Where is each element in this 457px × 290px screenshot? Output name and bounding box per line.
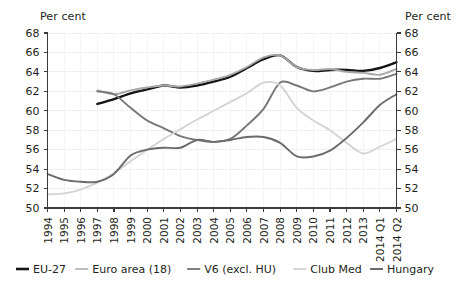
y-tick-label-left: 60 [26, 105, 40, 118]
x-tick-label: 2000 [141, 217, 153, 244]
chart-canvas: 50525456586062646668 5052545658606264666… [0, 0, 457, 290]
y-tick-label-right: 58 [405, 124, 419, 137]
y-tick-label-right: 62 [405, 85, 419, 98]
x-tick-label: 2013 [357, 217, 369, 244]
y-tick-label-right: 64 [405, 66, 419, 79]
y-tick-label-left: 64 [26, 66, 40, 79]
y-tick-label-right: 54 [405, 163, 419, 176]
series-line-club-med [48, 82, 397, 194]
legend-label-club-med: Club Med [310, 263, 361, 276]
horizontal-gridlines [48, 33, 397, 189]
y-tick-label-right: 56 [405, 143, 419, 156]
x-tick-label: 2004 [208, 217, 220, 244]
legend-label-v6-excl-hu: V6 (excl. HU) [204, 263, 276, 276]
x-tick-label: 2008 [274, 217, 286, 244]
y-tick-label-left: 62 [26, 85, 40, 98]
x-tick-label: 2009 [291, 217, 303, 244]
x-tick-label: 2010 [307, 217, 319, 244]
y-tick-label-left: 66 [26, 46, 40, 59]
legend-label-eu-27: EU-27 [33, 263, 66, 276]
y-tick-label-left: 58 [26, 124, 40, 137]
x-tick-label: 2011 [324, 217, 336, 244]
legend-label-euro-area-18: Euro area (18) [92, 263, 171, 276]
legend-label-hungary: Hungary [387, 263, 434, 276]
x-tick-label: 1995 [58, 217, 70, 244]
y-axis-ticks-left: 50525456586062646668 [26, 27, 48, 215]
x-tick-label: 2001 [158, 217, 170, 244]
y-tick-label-right: 60 [405, 105, 419, 118]
y-tick-label-right: 66 [405, 46, 419, 59]
x-tick-label: 2014 Q1 [374, 217, 386, 262]
x-tick-label: 1994 [42, 217, 54, 244]
series-lines [48, 55, 397, 195]
x-tick-label: 2012 [341, 217, 353, 244]
y-tick-label-left: 54 [26, 163, 40, 176]
line-chart: Per cent Per cent 50525456586062646668 5… [0, 0, 457, 290]
y-tick-label-left: 52 [26, 182, 40, 195]
y-tick-label-left: 56 [26, 143, 40, 156]
x-tick-label: 2005 [224, 217, 236, 244]
x-tick-label: 1998 [108, 217, 120, 244]
x-tick-label: 1997 [91, 217, 103, 244]
chart-legend: EU-27Euro area (18)V6 (excl. HU)Club Med… [16, 263, 434, 276]
vertical-gridlines [64, 33, 396, 208]
y-tick-label-left: 50 [26, 202, 40, 215]
y-axis-unit-label-right: Per cent [405, 10, 451, 23]
x-tick-label: 2003 [191, 217, 203, 244]
x-tick-label: 2002 [174, 217, 186, 244]
x-tick-label: 2014 Q2 [391, 217, 403, 262]
y-tick-label-right: 52 [405, 182, 419, 195]
y-axis-ticks-right: 50525456586062646668 [397, 27, 419, 215]
x-tick-label: 1996 [75, 217, 87, 244]
y-tick-label-right: 68 [405, 27, 419, 40]
y-tick-label-right: 50 [405, 202, 419, 215]
x-axis-ticks: 1994199519961997199819992000200120022003… [42, 208, 403, 262]
y-tick-label-left: 68 [26, 27, 40, 40]
x-tick-label: 1999 [125, 217, 137, 244]
x-tick-label: 2007 [258, 217, 270, 244]
y-axis-unit-label-left: Per cent [40, 10, 86, 23]
x-tick-label: 2006 [241, 217, 253, 244]
